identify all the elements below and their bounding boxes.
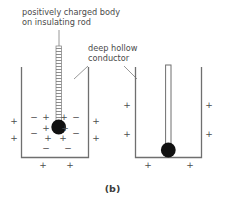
left-inner-plus-charge: +: [44, 133, 52, 143]
right-outer-plus-charge: +: [123, 100, 131, 110]
left-inner-plus-charge: +: [59, 133, 67, 143]
left-inner-minus-charge: −: [64, 143, 72, 153]
figure-panel-b: positively charged body on insulating ro…: [0, 0, 225, 208]
left-outer-plus-charge: +: [92, 133, 100, 143]
left-inner-minus-charge: −: [30, 112, 38, 122]
left-outer-plus-charge: +: [10, 116, 18, 126]
left-inner-minus-charge: −: [42, 143, 50, 153]
left-inner-plus-charge: +: [42, 123, 50, 133]
right-outer-plus-charge: +: [144, 160, 152, 170]
insulating-rod-hollow: [166, 65, 171, 148]
diagram-background: [0, 0, 225, 208]
rod-label-line-1: positively charged body: [22, 7, 120, 17]
conductor-label-line-2: conductor: [88, 53, 130, 63]
left-outer-plus-charge: +: [10, 133, 18, 143]
left-inner-minus-charge: −: [72, 112, 80, 122]
left-outer-plus-charge: +: [66, 160, 74, 170]
charged-body-ball-right: [161, 143, 176, 158]
left-inner-plus-charge: +: [60, 112, 68, 122]
right-outer-plus-charge: +: [123, 129, 131, 139]
right-outer-plus-charge: +: [205, 100, 213, 110]
right-outer-plus-charge: +: [205, 129, 213, 139]
figure-caption: (b): [105, 183, 120, 194]
conductor-label-line-1: deep hollow: [88, 43, 138, 53]
left-inner-plus-charge: +: [61, 123, 69, 133]
left-inner-minus-charge: −: [72, 128, 80, 138]
rod-label-line-2: on insulating rod: [22, 17, 91, 27]
left-inner-plus-charge: +: [42, 112, 50, 122]
left-outer-plus-charge: +: [92, 116, 100, 126]
right-outer-plus-charge: +: [186, 160, 194, 170]
left-outer-plus-charge: +: [39, 160, 47, 170]
left-inner-minus-charge: −: [30, 128, 38, 138]
physics-diagram-svg: positively charged body on insulating ro…: [0, 0, 225, 208]
